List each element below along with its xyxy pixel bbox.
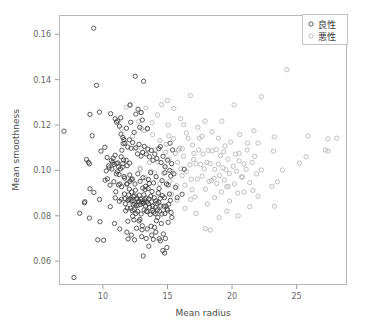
data-point: [98, 220, 102, 224]
data-point: [166, 220, 170, 224]
data-point: [126, 237, 130, 241]
data-point: [194, 161, 198, 165]
data-point: [216, 162, 220, 166]
data-point: [202, 167, 206, 171]
data-point: [140, 224, 144, 228]
data-point: [165, 245, 169, 249]
data-point: [96, 238, 100, 242]
y-tick-label: 0.08: [33, 212, 51, 221]
data-point: [103, 145, 107, 149]
data-point: [129, 233, 133, 237]
data-point: [201, 152, 205, 156]
data-point: [169, 161, 173, 165]
legend[interactable]: 良性 悪性: [303, 15, 348, 45]
data-point: [251, 188, 255, 192]
data-point: [127, 161, 131, 165]
data-point: [238, 132, 242, 136]
data-point: [97, 197, 101, 201]
data-point: [232, 103, 236, 107]
data-point: [271, 149, 275, 153]
data-point: [87, 216, 91, 220]
data-point: [151, 237, 155, 241]
data-point: [114, 190, 118, 194]
data-point: [72, 275, 76, 279]
data-point: [194, 211, 198, 215]
data-point: [203, 119, 207, 123]
data-point: [223, 144, 227, 148]
data-point: [137, 142, 141, 146]
data-point: [157, 186, 161, 190]
data-point: [171, 137, 175, 141]
data-point: [180, 192, 184, 196]
data-point: [127, 187, 131, 191]
data-point: [113, 196, 117, 200]
data-point: [88, 112, 92, 116]
data-point: [62, 129, 66, 133]
y-tick-label: 0.06: [33, 257, 51, 266]
y-tick-label: 0.16: [33, 30, 51, 39]
data-point: [78, 211, 82, 215]
data-point: [136, 172, 140, 176]
data-point: [297, 161, 301, 165]
data-point: [217, 215, 221, 219]
data-point: [120, 148, 124, 152]
data-point: [168, 198, 172, 202]
x-axis-title: Mean radius: [175, 308, 231, 318]
data-point: [191, 143, 195, 147]
data-point: [199, 162, 203, 166]
data-point: [119, 116, 123, 120]
data-point: [196, 125, 200, 129]
data-point: [171, 148, 175, 152]
data-point: [189, 177, 193, 181]
data-point: [88, 187, 92, 191]
data-point: [237, 159, 241, 163]
y-tick-label: 0.10: [33, 166, 51, 175]
data-point: [335, 136, 339, 140]
data-point: [212, 176, 216, 180]
data-point: [140, 235, 144, 239]
data-point: [147, 155, 151, 159]
data-point: [140, 228, 144, 232]
data-point: [164, 150, 168, 154]
data-point: [137, 193, 141, 197]
data-point: [203, 226, 207, 230]
plot-canvas: 10152025 0.060.080.100.120.140.16 Mean r…: [0, 0, 365, 330]
data-point: [304, 155, 308, 159]
data-point: [140, 118, 144, 122]
data-point: [190, 188, 194, 192]
legend-label-malignant: 悪性: [318, 31, 336, 42]
y-tick-label: 0.14: [33, 76, 51, 85]
data-point: [234, 169, 238, 173]
data-point: [165, 98, 169, 102]
data-point: [180, 173, 184, 177]
data-point: [231, 164, 235, 168]
data-point: [172, 106, 176, 110]
data-point: [197, 148, 201, 152]
data-point: [175, 160, 179, 164]
data-point: [214, 147, 218, 151]
data-point: [156, 191, 160, 195]
data-point: [139, 212, 143, 216]
data-point: [227, 171, 231, 175]
data-point: [163, 236, 167, 240]
x-tick-label: 25: [292, 292, 302, 301]
data-point: [242, 190, 246, 194]
data-point: [254, 172, 258, 176]
data-point: [272, 204, 276, 208]
data-point: [184, 131, 188, 135]
data-point: [192, 151, 196, 155]
data-point: [236, 214, 240, 218]
data-point: [208, 228, 212, 232]
data-point: [159, 102, 163, 106]
x-axis-ticks: 10152025: [98, 285, 302, 301]
data-point: [253, 154, 257, 158]
data-point: [155, 113, 159, 117]
data-point: [270, 184, 274, 188]
data-point: [150, 189, 154, 193]
data-point: [158, 181, 162, 185]
data-point: [92, 190, 96, 194]
data-point: [252, 129, 256, 133]
data-point: [144, 236, 148, 240]
legend-label-benign: 良性: [318, 19, 336, 30]
data-point: [108, 205, 112, 209]
